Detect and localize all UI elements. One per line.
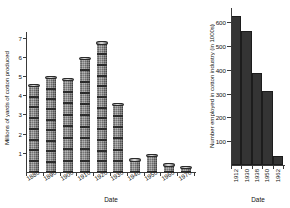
bobbin-segment [80, 149, 90, 160]
bobbin-segment [63, 138, 73, 150]
bobbin-segment [46, 78, 56, 88]
right-x-tick-label: 1950 [264, 169, 270, 182]
bobbin-segment [80, 104, 90, 115]
left-y-tick-label: 2 [10, 130, 22, 137]
bobbin-segment [80, 82, 90, 93]
bobbin-cap-icon [79, 57, 91, 60]
bobbin-segment [97, 65, 107, 76]
right-bar [273, 156, 283, 166]
left-y-tick-label: 5 [10, 73, 22, 80]
bobbin-segment [113, 127, 123, 138]
bobbin-cap-icon [62, 78, 74, 81]
figure-canvas: Millions of yards of cotton produced Dat… [0, 0, 290, 208]
bobbin-segment [46, 130, 56, 140]
bobbin-segment [97, 129, 107, 140]
bobbin-segment [113, 150, 123, 161]
bobbin-segment [63, 80, 73, 92]
right-x-tick-label: 1962 [275, 169, 281, 182]
bobbin-segment [29, 140, 39, 151]
bobbin-cap-icon [28, 84, 40, 87]
left-bar [29, 86, 39, 172]
bobbin-segment [80, 59, 90, 70]
chart-cotton-employment: Number employed in cotton industry (in 1… [205, 0, 290, 208]
bobbin-segment [97, 44, 107, 55]
left-plot-area [26, 32, 194, 172]
bobbin-segment [97, 97, 107, 108]
right-x-tick-label: 1930 [244, 169, 250, 182]
left-y-tick-label: 7 [10, 34, 22, 41]
left-bar [80, 59, 90, 172]
right-y-tick [227, 22, 232, 23]
left-y-tick [23, 153, 27, 154]
bobbin-segment [113, 105, 123, 116]
bobbin-cap-icon [180, 166, 192, 169]
left-y-tick [23, 57, 27, 58]
bobbin-segment [63, 92, 73, 104]
right-x-axis [231, 165, 285, 166]
bobbin-segment [63, 149, 73, 161]
right-plot-area [231, 8, 283, 165]
bobbin-segment [29, 150, 39, 161]
bobbin-segment [80, 70, 90, 81]
bobbin-segment [97, 108, 107, 119]
bobbin-cap-icon [129, 158, 141, 161]
right-bar [252, 73, 262, 165]
right-x-tick [273, 165, 274, 169]
left-bar [46, 78, 56, 172]
bobbin-segment [29, 118, 39, 129]
bobbin-segment [46, 120, 56, 130]
bobbin-segment [97, 118, 107, 129]
right-y-tick-label: 100 [209, 138, 226, 145]
right-x-tick [252, 165, 253, 169]
right-bar [231, 16, 241, 165]
left-x-axis-label: Date [26, 196, 196, 203]
bobbin-segment [80, 138, 90, 149]
bobbin-cap-icon [146, 154, 158, 157]
left-y-tick-label: 6 [10, 53, 22, 60]
bobbin-segment [63, 115, 73, 127]
bobbin-segment [97, 140, 107, 151]
bobbin-segment [97, 54, 107, 65]
bobbin-cap-icon [96, 41, 108, 44]
right-x-tick-label: 1912 [233, 169, 239, 182]
bobbin-segment [46, 151, 56, 161]
left-y-axis [26, 32, 27, 172]
bobbin-segment [63, 103, 73, 115]
right-x-tick [231, 165, 232, 169]
right-y-tick-label: 400 [209, 66, 226, 73]
right-x-axis-label: Date [231, 196, 285, 203]
right-bar [241, 31, 251, 165]
bobbin-segment [80, 115, 90, 126]
right-x-tick-label: 1938 [254, 169, 260, 182]
left-y-tick-label: 1 [10, 149, 22, 156]
left-y-tick [23, 134, 27, 135]
right-y-tick [227, 141, 232, 142]
bobbin-segment [97, 76, 107, 87]
bobbin-segment [46, 89, 56, 99]
right-bar [262, 91, 272, 165]
bobbin-cap-icon [163, 163, 175, 166]
left-y-tick [23, 95, 27, 96]
bobbin-segment [113, 138, 123, 149]
bobbin-segment [46, 141, 56, 151]
right-y-tick-label: 200 [209, 114, 226, 121]
chart-cotton-produced: Millions of yards of cotton produced Dat… [0, 0, 205, 208]
left-y-tick-label: 4 [10, 92, 22, 99]
bobbin-cap-icon [45, 76, 57, 79]
left-y-tick [23, 76, 27, 77]
right-y-tick [227, 94, 232, 95]
bobbin-segment [29, 107, 39, 118]
bobbin-segment [97, 151, 107, 162]
left-bar [63, 80, 73, 172]
left-bar [97, 44, 107, 172]
bobbin-segment [29, 97, 39, 108]
bobbin-segment [63, 126, 73, 138]
right-y-tick [227, 46, 232, 47]
right-y-tick-label: 300 [209, 90, 226, 97]
bobbin-segment [46, 99, 56, 109]
right-y-tick-label: 500 [209, 43, 226, 50]
bobbin-segment [80, 127, 90, 138]
bobbin-segment [80, 93, 90, 104]
left-bar [113, 105, 123, 172]
left-y-tick [23, 114, 27, 115]
